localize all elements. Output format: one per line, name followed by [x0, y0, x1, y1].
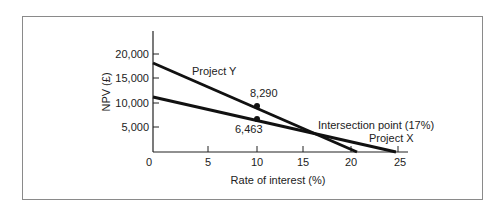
x-tick-5: 5 [205, 156, 211, 168]
value-6463: 6,463 [235, 123, 263, 135]
y-tick-15000: 15,000 [115, 72, 149, 84]
x-tick-25: 25 [394, 156, 406, 168]
y-tick-10000: 10,000 [115, 97, 149, 109]
y-axis-label: NPV (£) [100, 72, 112, 111]
x-tick-0: 0 [146, 156, 152, 168]
project-x-point-10 [254, 116, 260, 122]
npv-chart: 20,000 15,000 10,000 5,000 0 5 10 15 20 … [0, 0, 502, 211]
x-tick-10: 10 [251, 156, 263, 168]
intersection-label: Intersection point (17%) [318, 119, 434, 131]
project-y-point-10 [254, 103, 260, 109]
y-tick-5000: 5,000 [121, 121, 149, 133]
project-y-label: Project Y [192, 65, 237, 77]
x-tick-15: 15 [297, 156, 309, 168]
x-axis-label: Rate of interest (%) [231, 174, 326, 186]
value-8290: 8,290 [250, 87, 278, 99]
y-tick-20000: 20,000 [115, 48, 149, 60]
x-tick-20: 20 [345, 156, 357, 168]
project-x-label: Project X [369, 132, 414, 144]
